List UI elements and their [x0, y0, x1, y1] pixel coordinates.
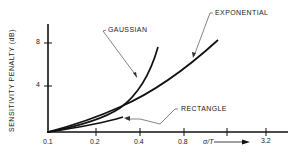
gaussian-leader — [103, 30, 137, 77]
rectangle-annotation: RECTANGLE — [181, 105, 227, 112]
chart-plot-area — [0, 0, 303, 154]
x-tick-label-0.1: 0.1 — [43, 138, 53, 145]
exponential-arrowhead — [192, 52, 196, 58]
exponential-annotation: EXPONENTIAL — [215, 9, 268, 16]
x-tick-label-0.4: 0.4 — [134, 138, 144, 145]
rectangle-curve — [48, 117, 123, 132]
gaussian-arrowhead — [133, 72, 137, 78]
gaussian-annotation: GAUSSIAN — [108, 26, 147, 33]
x-direction-arrowhead — [242, 140, 250, 145]
sensitivity-penalty-chart: SENSITIVITY PENALTY (dB) 8 4 0.1 0.2 0.4… — [0, 0, 303, 154]
rectangle-arrowhead — [124, 116, 130, 121]
y-axis-label: SENSITIVITY PENALTY (dB) — [8, 26, 15, 136]
y-tick-label-4: 4 — [36, 81, 40, 88]
x-tick-label-3.2: 3.2 — [261, 137, 271, 144]
x-tick-label-0.8: 0.8 — [178, 138, 188, 145]
x-tick-label-0.2: 0.2 — [90, 138, 100, 145]
rectangle-leader — [126, 109, 178, 124]
y-tick-label-8: 8 — [36, 38, 40, 45]
exponential-leader — [194, 13, 213, 56]
x-axis-label: σ/T — [203, 138, 213, 145]
